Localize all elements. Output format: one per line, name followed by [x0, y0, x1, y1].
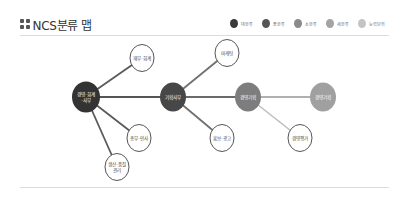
map-node[interactable]: 재무·회계 — [130, 45, 154, 72]
node-label: 생산·품질 — [108, 161, 125, 167]
ncs-classification-map: 경영·회계·사무재무·회계총무·인사생산·품질관리기획사무마케팅홍보·광고경영기… — [0, 0, 409, 197]
map-node[interactable]: 경영·회계·사무 — [72, 82, 100, 113]
map-node[interactable]: 마케팅 — [215, 40, 239, 67]
node-label: 경영평가 — [292, 135, 309, 142]
map-node[interactable]: 기획사무 — [160, 83, 186, 112]
footer-divider — [20, 187, 389, 188]
node-label: 재무·회계 — [133, 55, 150, 62]
map-node[interactable]: 홍보·광고 — [210, 125, 234, 152]
map-node[interactable]: 총무·인사 — [127, 125, 151, 152]
map-node[interactable]: 생산·품질관리 — [105, 154, 129, 181]
node-label: 경영·회계 — [77, 91, 94, 98]
node-label: 홍보·광고 — [213, 135, 230, 141]
node-label: 총무·인사 — [130, 135, 148, 142]
node-label: 마케팅 — [221, 50, 233, 57]
node-label: 기획사무 — [165, 94, 181, 101]
map-node[interactable]: 경영평가 — [288, 125, 312, 152]
node-label: ·사무 — [81, 97, 90, 104]
node-label: 경영기획 — [240, 94, 256, 101]
map-node[interactable]: 경영기획 — [310, 83, 336, 112]
node-circle — [105, 154, 129, 181]
map-node[interactable]: 경영기획 — [235, 83, 261, 112]
node-circle — [72, 82, 100, 113]
node-label: 경영기획 — [315, 94, 331, 101]
node-label: 관리 — [113, 167, 121, 174]
